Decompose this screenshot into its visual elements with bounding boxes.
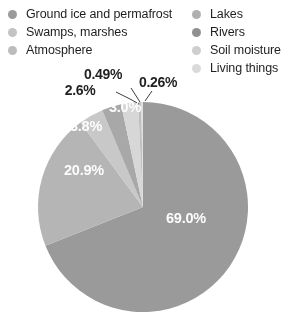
slice-callout-labels: 0.49%2.6%0.26% (65, 66, 178, 98)
slice-value-label: 69.0% (166, 210, 206, 226)
pie-chart: 69.0%20.9%3.8%3.0% 0.49%2.6%0.26% (0, 0, 290, 317)
pie-chart-svg: 69.0%20.9%3.8%3.0% 0.49%2.6%0.26% (0, 0, 290, 317)
slice-callout-label: 0.49% (84, 66, 123, 82)
slice-value-label: 3.0% (109, 99, 142, 115)
slice-callout-label: 2.6% (65, 82, 97, 98)
slice-callout-label: 0.26% (139, 74, 178, 90)
leader-line-0-26 (145, 91, 152, 101)
slice-value-label: 20.9% (64, 162, 104, 178)
chart-screenshot: Ground ice and permafrost Swamps, marshe… (0, 0, 290, 317)
slice-value-label: 3.8% (70, 118, 103, 134)
